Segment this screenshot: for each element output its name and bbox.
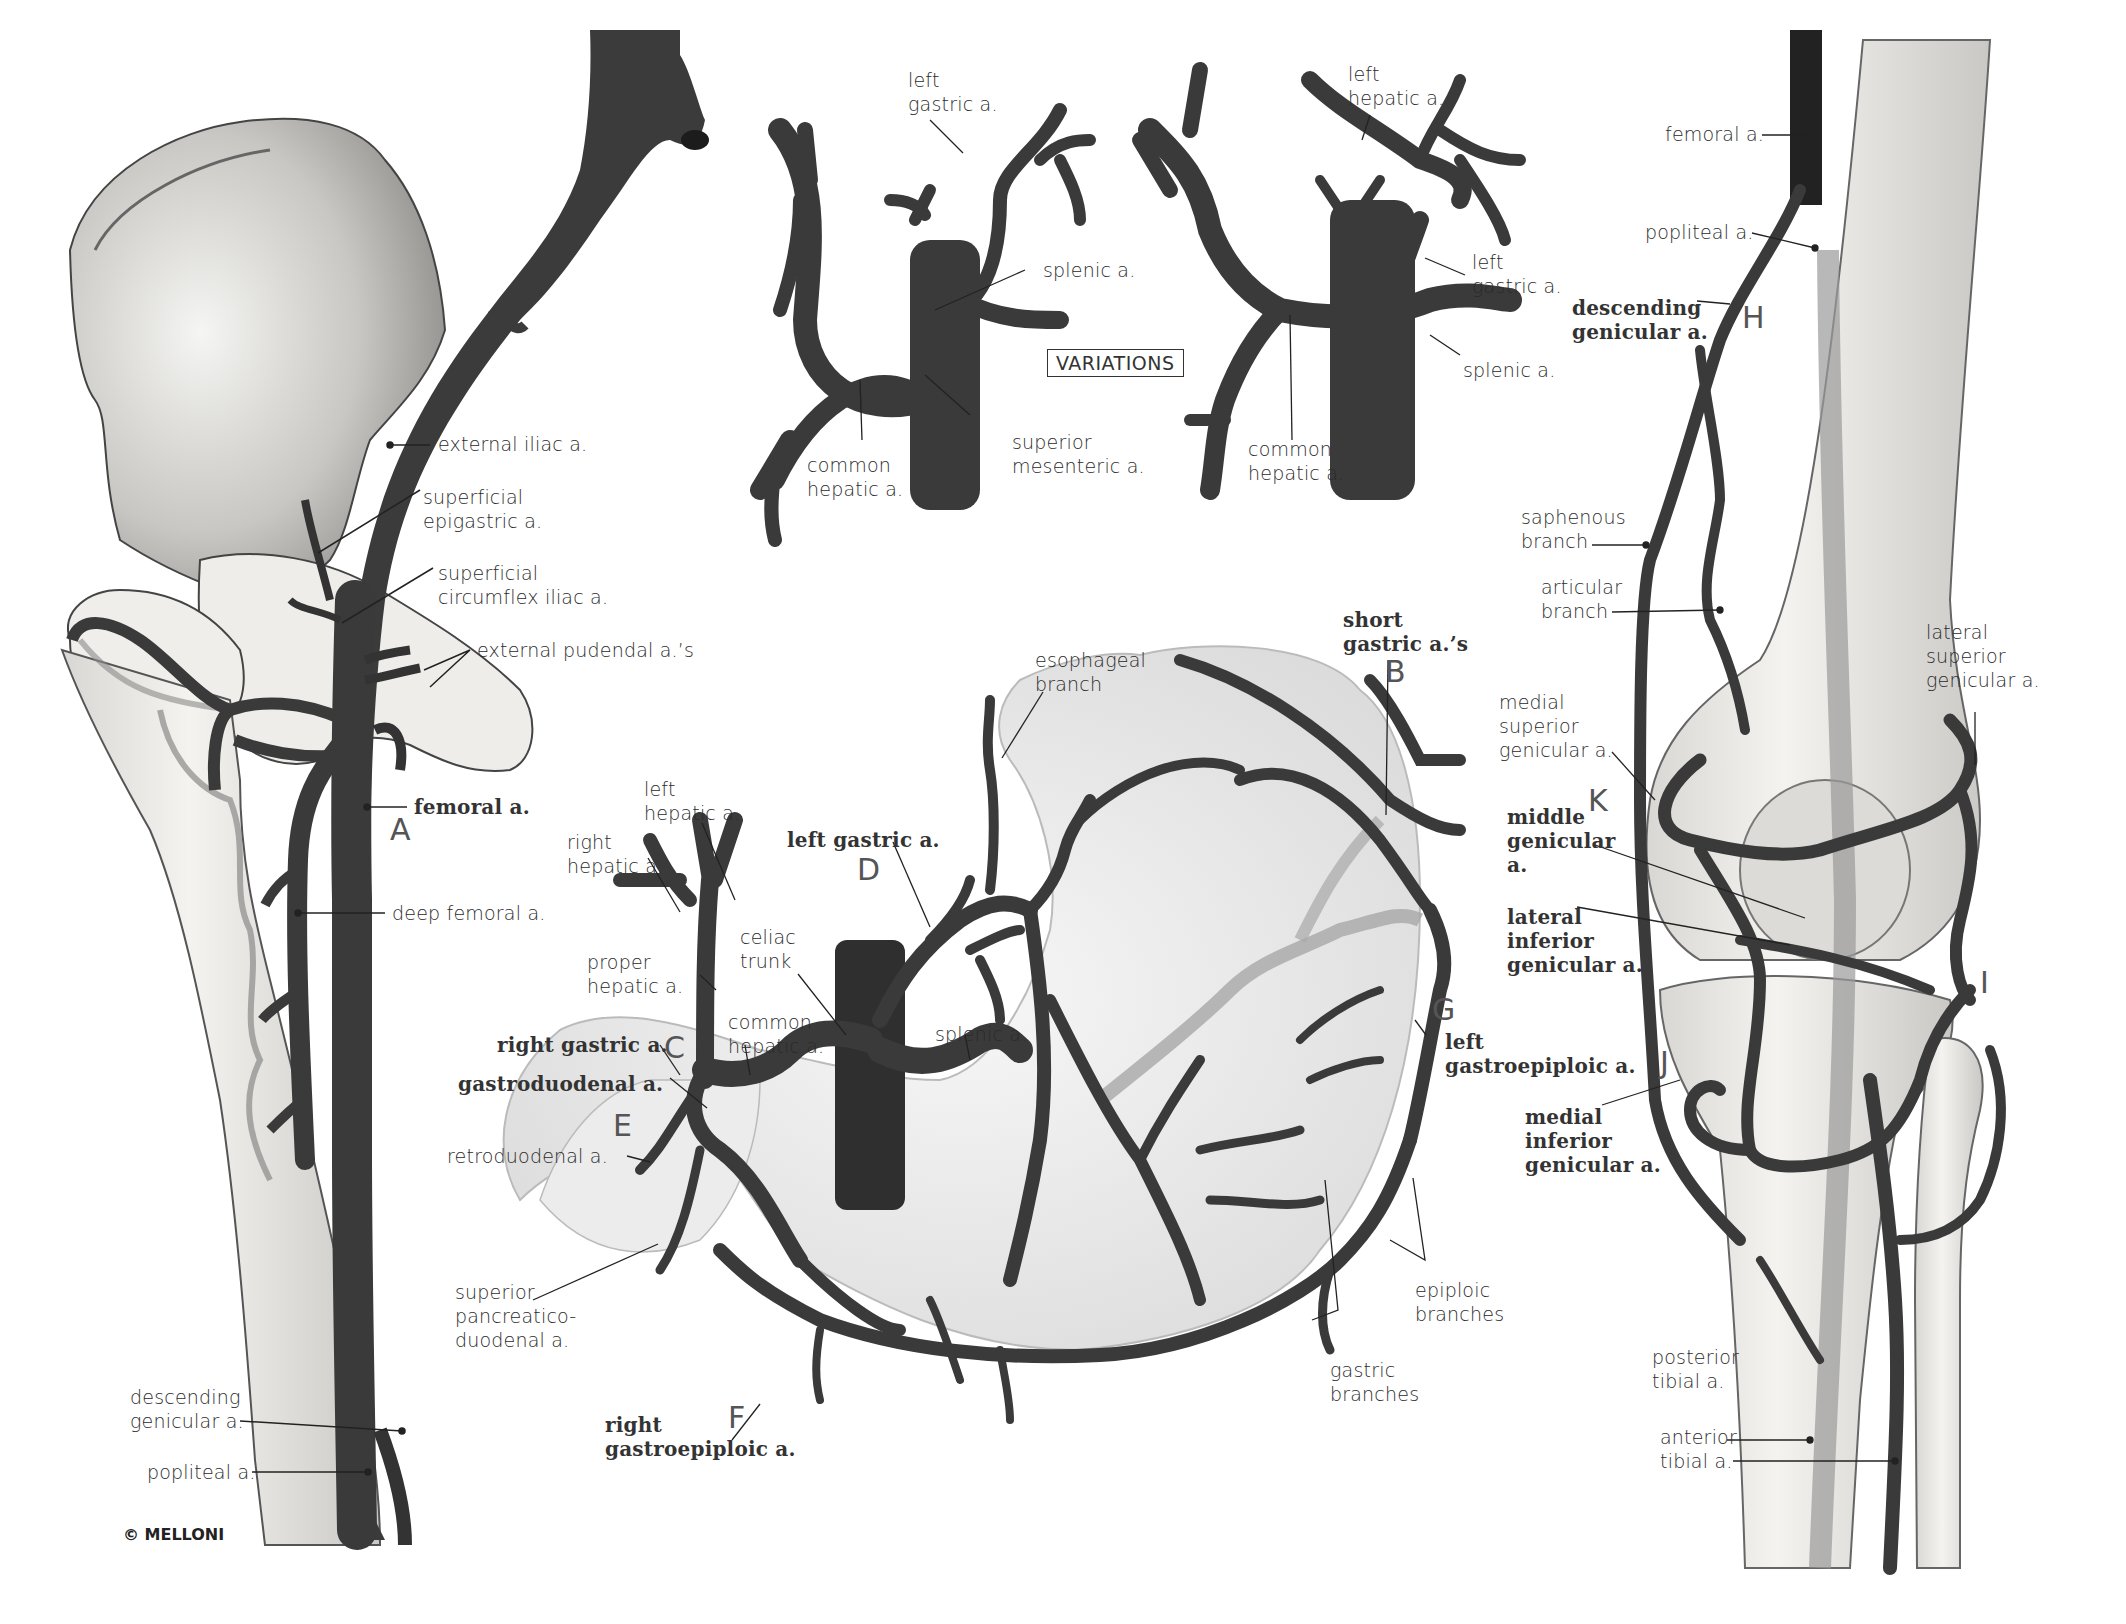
label-celiac-trunk: celiac trunk	[740, 925, 796, 973]
letter-E: E	[613, 1108, 632, 1143]
label-var1-common-hepatic: common hepatic a.	[807, 453, 903, 501]
variations-box: VARIATIONS	[1047, 349, 1184, 377]
label-left-hepatic: left hepatic a.	[644, 777, 740, 825]
label-lateral-superior-genicular: lateral superior genicular a.	[1926, 620, 2040, 692]
label-lateral-inferior-genicular: lateral inferior genicular a.	[1507, 905, 1643, 977]
letter-D: D	[857, 852, 880, 887]
label-esophageal-branch: esophageal branch	[1035, 648, 1146, 696]
label-var1-splenic: splenic a.	[1043, 258, 1135, 282]
letter-B: B	[1385, 654, 1406, 689]
patella	[1740, 780, 1910, 960]
label-var2-common-hepatic: common hepatic a.	[1248, 437, 1344, 485]
label-articular-branch: articular branch	[1541, 575, 1622, 623]
label-right-gastroepiploic: right gastroepiploic a.	[605, 1413, 796, 1461]
letter-H: H	[1742, 300, 1765, 335]
label-var1-superior-mesenteric: superior mesenteric a.	[1012, 430, 1145, 478]
label-var2-splenic: splenic a.	[1463, 358, 1555, 382]
tibia	[1660, 976, 1953, 1568]
label-gastric-branches: gastric branches	[1330, 1358, 1419, 1406]
label-superior-pancreaticoduodenal: superior pancreatico- duodenal a.	[455, 1280, 576, 1352]
letter-G: G	[1432, 992, 1455, 1027]
label-short-gastric: short gastric a.’s	[1343, 608, 1468, 656]
variation-diagram-2	[1140, 70, 1520, 500]
label-var2-left-gastric: left gastric a.	[1472, 250, 1562, 298]
esophageal-branch	[988, 700, 994, 890]
label-medial-inferior-genicular: medial inferior genicular a.	[1525, 1105, 1661, 1177]
label-popliteal-thigh: popliteal a.	[147, 1460, 256, 1484]
letter-F: F	[728, 1400, 745, 1435]
letter-C: C	[664, 1030, 685, 1065]
label-superficial-circumflex-iliac: superficial circumflex iliac a.	[438, 561, 608, 609]
label-right-gastric: right gastric a.	[497, 1033, 668, 1057]
label-superficial-epigastric: superficial epigastric a.	[423, 485, 542, 533]
label-popliteal-knee: popliteal a.	[1645, 220, 1754, 244]
label-left-gastric: left gastric a.	[787, 828, 940, 852]
label-posterior-tibial: posterior tibial a.	[1652, 1345, 1739, 1393]
label-retroduodenal: retroduodenal a.	[447, 1144, 608, 1168]
femoral-artery-distal	[1790, 30, 1822, 205]
label-middle-genicular: middle genicular a.	[1507, 805, 1615, 877]
label-descending-genicular-knee: descending genicular a.	[1572, 296, 1708, 344]
label-femoral: femoral a.	[414, 795, 530, 819]
letter-A: A	[390, 812, 411, 847]
label-splenic: splenic a.	[935, 1022, 1027, 1046]
label-epiploic-branches: epiploic branches	[1415, 1278, 1504, 1326]
label-common-hepatic: common hepatic a.	[728, 1010, 824, 1058]
anterior-tibial-artery	[1870, 1080, 1897, 1568]
label-var1-left-gastric: left gastric a.	[908, 68, 998, 116]
label-left-gastroepiploic: left gastroepiploic a.	[1445, 1030, 1636, 1078]
fibula	[1915, 1038, 1983, 1568]
letter-I: I	[1980, 965, 1989, 1000]
label-proper-hepatic: proper hepatic a.	[587, 950, 683, 998]
label-deep-femoral: deep femoral a.	[392, 901, 546, 925]
copyright-melloni: © MELLONI	[123, 1525, 224, 1544]
label-femoral-knee: femoral a.	[1665, 122, 1764, 146]
label-right-hepatic: right hepatic a.	[567, 830, 663, 878]
label-external-iliac: external iliac a.	[438, 432, 587, 456]
label-gastroduodenal: gastroduodenal a.	[458, 1072, 663, 1096]
illustration-canvas	[0, 0, 2126, 1624]
letter-J: J	[1660, 1045, 1669, 1080]
label-anterior-tibial: anterior tibial a.	[1660, 1425, 1737, 1473]
knee-panel	[1577, 30, 2001, 1568]
label-descending-genicular-thigh: descending genicular a.	[130, 1385, 244, 1433]
articular-branch	[1700, 350, 1745, 730]
hip-thigh-panel	[62, 30, 709, 1545]
label-saphenous-branch: saphenous branch	[1521, 505, 1626, 553]
anatomy-figure: external iliac a. superficial epigastric…	[0, 0, 2126, 1624]
label-external-pudendal: external pudendal a.’s	[477, 638, 694, 662]
label-medial-superior-genicular: medial superior genicular a.	[1499, 690, 1613, 762]
label-var2-left-hepatic: left hepatic a.	[1348, 62, 1444, 110]
